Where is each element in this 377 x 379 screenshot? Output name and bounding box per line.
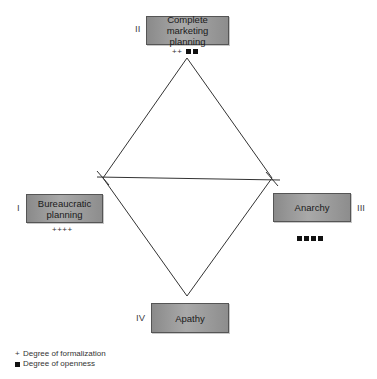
- diamond-shape: [103, 58, 272, 296]
- left-cross-mark: [97, 171, 109, 185]
- horizontal-axis: [97, 177, 280, 180]
- box-label-line2: planning: [147, 36, 228, 47]
- box-apathy: Apathy: [151, 303, 229, 333]
- markers-quadrant-i: ++++: [52, 225, 73, 234]
- box-label: Anarchy: [295, 202, 330, 213]
- planning-diamond-diagram: II Complete marketing planning ++ I Bure…: [0, 0, 377, 379]
- openness-square-icon: [311, 236, 316, 241]
- openness-square-icon: [186, 49, 191, 54]
- markers-quadrant-iii: [296, 234, 324, 243]
- box-label-line1: Complete marketing: [147, 14, 228, 36]
- box-complete-marketing-planning: Complete marketing planning: [146, 16, 229, 45]
- box-anarchy: Anarchy: [273, 193, 351, 222]
- openness-square-icon: [318, 236, 323, 241]
- openness-square-icon: [304, 236, 309, 241]
- formalization-marks: ++: [172, 47, 182, 56]
- legend-item-openness: Degree of openness: [15, 359, 106, 369]
- box-label-line2: planning: [38, 209, 91, 220]
- legend-label-openness: Degree of openness: [23, 359, 95, 369]
- numeral-ii: II: [135, 23, 140, 34]
- box-bureaucratic-planning: Bureaucratic planning: [26, 194, 103, 223]
- markers-quadrant-ii: ++: [172, 47, 199, 56]
- openness-square-icon: [297, 236, 302, 241]
- plus-icon: +: [15, 349, 23, 359]
- formalization-marks: ++++: [52, 225, 73, 234]
- legend: + Degree of formalization Degree of open…: [15, 349, 106, 369]
- numeral-i: I: [17, 202, 20, 213]
- legend-item-formalization: + Degree of formalization: [15, 349, 106, 359]
- numeral-iv: IV: [136, 312, 145, 323]
- numeral-iii: III: [357, 202, 365, 213]
- openness-square-icon: [193, 49, 198, 54]
- legend-label-formalization: Degree of formalization: [23, 349, 106, 359]
- box-label: Apathy: [175, 313, 205, 324]
- box-label-line1: Bureaucratic: [38, 198, 91, 209]
- square-icon: [15, 362, 20, 367]
